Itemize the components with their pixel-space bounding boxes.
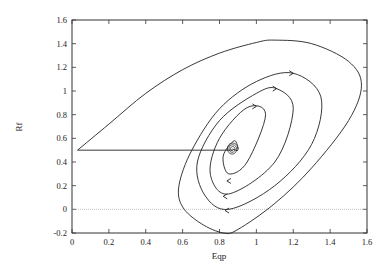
y-axis-label: Rf xyxy=(14,122,24,131)
x-axis-ticks: 00.20.40.60.811.21.41.6 xyxy=(70,20,372,247)
x-axis-label: Eqp xyxy=(212,251,227,261)
arrow-icon xyxy=(223,194,227,199)
x-tick-label: 0.8 xyxy=(214,237,225,247)
y-tick-label: 1 xyxy=(63,86,67,96)
y-tick-label: 0.8 xyxy=(56,110,67,120)
plot-frame xyxy=(72,20,367,233)
y-tick-label: 1.6 xyxy=(56,15,67,25)
x-tick-label: 0 xyxy=(70,237,74,247)
phase-trajectory xyxy=(78,40,362,234)
y-tick-label: -0.2 xyxy=(54,228,67,238)
phase-plot: 00.20.40.60.811.21.41.6 -0.200.20.40.60.… xyxy=(0,0,392,268)
x-tick-label: 0.6 xyxy=(177,237,188,247)
equilibrium-spiral xyxy=(227,143,238,154)
arrow-icon xyxy=(273,86,277,91)
y-tick-label: 0.6 xyxy=(56,133,67,143)
y-tick-label: 1.4 xyxy=(56,39,67,49)
arrow-icon xyxy=(252,104,256,109)
y-tick-label: 1.2 xyxy=(56,62,67,72)
x-tick-label: 0.2 xyxy=(104,237,115,247)
y-axis-ticks: -0.200.20.40.60.811.21.41.6 xyxy=(54,15,367,238)
arrow-icon xyxy=(227,178,231,183)
y-tick-label: 0.4 xyxy=(56,157,67,167)
y-tick-label: 0.2 xyxy=(56,181,67,191)
x-tick-label: 1.4 xyxy=(325,237,336,247)
x-tick-label: 1.6 xyxy=(362,237,373,247)
x-tick-label: 0.4 xyxy=(140,237,151,247)
arrow-icon xyxy=(225,208,229,213)
x-tick-label: 1 xyxy=(254,237,258,247)
x-tick-label: 1.2 xyxy=(288,237,299,247)
y-tick-label: 0 xyxy=(63,204,67,214)
